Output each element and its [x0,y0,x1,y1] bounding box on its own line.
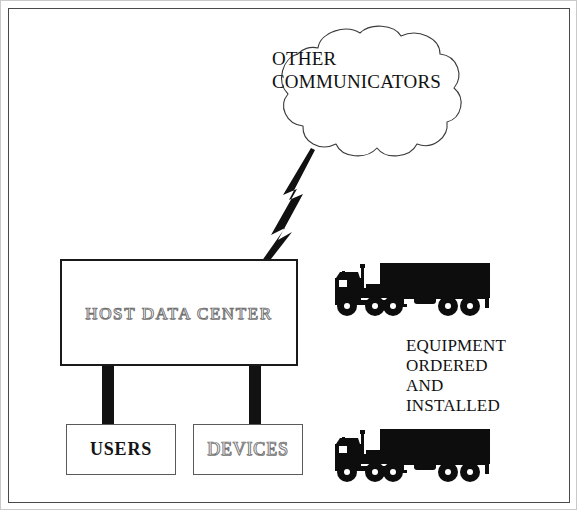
host-leg-left [102,366,114,424]
users-label: USERS [67,439,175,460]
lightning-bolt-icon [258,148,338,273]
host-data-center-box: HOST DATA CENTER [60,259,298,366]
devices-box: DEVICES [193,424,303,475]
host-leg-right [249,366,261,424]
devices-label: DEVICES [194,439,302,460]
users-box: USERS [66,424,176,475]
host-data-center-label: HOST DATA CENTER [62,304,296,324]
equipment-caption: EQUIPMENT ORDERED AND INSTALLED [406,336,566,416]
cloud-label: OTHER COMMUNICATORS [272,47,462,93]
semi-truck-icon-bottom [330,424,552,486]
semi-truck-icon-top [330,258,552,320]
diagram-canvas: OTHER COMMUNICATORS HOST DATA CENTER USE… [0,0,578,511]
cloud-shape [258,24,468,164]
